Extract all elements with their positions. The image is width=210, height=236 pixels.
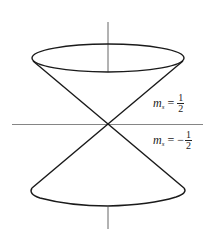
lower-label-sign: − bbox=[177, 133, 184, 148]
lower-label-equals: = bbox=[167, 133, 174, 148]
upper-label-equals: = bbox=[167, 96, 174, 111]
upper-spin-label: ms=12 bbox=[153, 93, 184, 114]
upper-label-subscript: s bbox=[162, 103, 165, 111]
lower-label-denominator: 2 bbox=[186, 141, 191, 151]
upper-label-symbol: m bbox=[153, 96, 162, 111]
lower-cone-left-side bbox=[32, 124, 108, 188]
lower-label-fraction: 12 bbox=[185, 130, 192, 151]
lower-label-subscript: s bbox=[162, 140, 165, 148]
lower-label-symbol: m bbox=[153, 133, 162, 148]
upper-label-denominator: 2 bbox=[178, 104, 183, 114]
lower-cone-rim bbox=[31, 188, 185, 206]
spin-cones-diagram bbox=[0, 0, 210, 236]
lower-spin-label: ms=−12 bbox=[153, 130, 192, 151]
upper-label-fraction: 12 bbox=[177, 93, 184, 114]
